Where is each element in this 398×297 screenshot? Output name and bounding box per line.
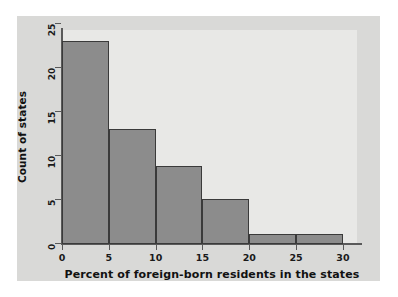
y-tick-label: 15 xyxy=(47,112,57,124)
histogram-bar xyxy=(249,234,296,244)
y-tick-label: 5 xyxy=(47,200,57,206)
x-tick-label: 30 xyxy=(336,252,349,263)
histogram-bar xyxy=(202,199,249,244)
x-tick-label: 20 xyxy=(243,252,256,263)
x-tick xyxy=(156,245,157,250)
y-tick-label: 10 xyxy=(47,156,57,168)
x-tick xyxy=(249,245,250,250)
histogram-bar xyxy=(109,129,156,244)
histogram-figure: 0510152025 051015202530 Count of states … xyxy=(0,0,398,297)
x-tick xyxy=(109,245,110,250)
x-tick xyxy=(202,245,203,250)
y-tick: 15 xyxy=(55,111,61,112)
y-tick-label: 0 xyxy=(47,244,57,250)
y-tick: 25 xyxy=(55,23,61,24)
y-tick-label: 20 xyxy=(47,68,57,80)
x-tick-label: 10 xyxy=(149,252,162,263)
x-tick xyxy=(62,245,63,250)
histogram-bar xyxy=(62,41,109,244)
y-tick: 5 xyxy=(55,199,61,200)
y-tick-label: 25 xyxy=(47,24,57,36)
y-tick: 20 xyxy=(55,67,61,68)
histogram-bar xyxy=(296,234,343,244)
y-tick: 0 xyxy=(55,243,61,244)
y-axis-title: Count of states xyxy=(16,91,28,183)
x-tick-label: 15 xyxy=(196,252,209,263)
x-tick-label: 25 xyxy=(290,252,303,263)
y-tick: 10 xyxy=(55,155,61,156)
x-axis-title: Percent of foreign-born residents in the… xyxy=(65,268,360,281)
x-tick-label: 0 xyxy=(59,252,66,263)
x-tick xyxy=(296,245,297,250)
x-tick xyxy=(343,245,344,250)
histogram-bar xyxy=(156,166,203,244)
x-tick-label: 5 xyxy=(106,252,113,263)
